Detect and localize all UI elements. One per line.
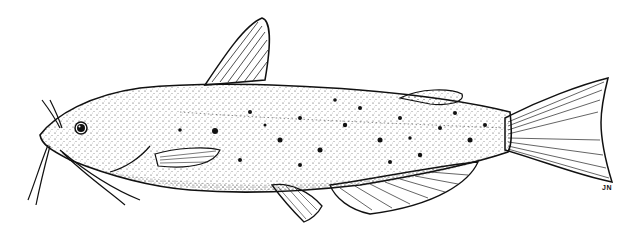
dorsal-fin <box>205 18 269 85</box>
eye <box>75 122 87 134</box>
artist-signature: JN <box>602 184 612 191</box>
catfish-illustration: JN <box>0 0 635 238</box>
catfish-drawing <box>0 0 635 238</box>
tail-fin <box>505 78 612 182</box>
